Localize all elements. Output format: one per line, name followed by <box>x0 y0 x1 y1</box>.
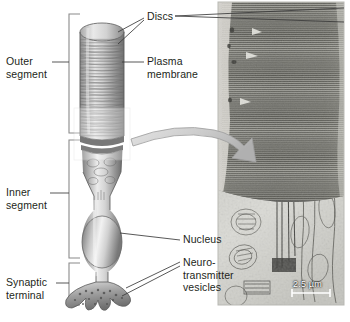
label-outer-segment: Outer segment <box>6 55 47 80</box>
label-plasma-membrane: Plasma membrane <box>147 55 198 80</box>
inner-segment-body <box>82 150 122 286</box>
leader-vesicles-b <box>122 266 180 296</box>
leader-discs-a <box>118 18 144 32</box>
label-neurotransmitter-vesicles: Neuro- transmitter vesicles <box>183 256 234 294</box>
label-nucleus: Nucleus <box>183 233 222 246</box>
rod-cell-figure: Outer segment Inner segment Synaptic ter… <box>0 0 350 322</box>
leader-vesicles-a <box>126 262 180 288</box>
label-synaptic-terminal: Synaptic terminal <box>6 276 47 301</box>
synaptic-terminal-body <box>66 282 131 310</box>
label-inner-segment: Inner segment <box>6 186 47 211</box>
leader-nucleus <box>120 233 180 240</box>
label-discs: Discs <box>147 10 173 23</box>
scale-bar-label: 2.5 µm <box>293 279 322 289</box>
zoom-highlight-box <box>74 108 130 160</box>
rod-cell-illustration <box>66 23 131 310</box>
diagram-graphics <box>0 0 350 322</box>
